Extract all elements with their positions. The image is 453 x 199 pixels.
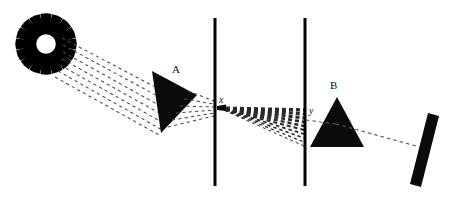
- prism-b: [310, 97, 364, 147]
- prism-a: [152, 71, 197, 133]
- screen-mirror: [410, 113, 439, 187]
- diagram-svg: [0, 0, 453, 199]
- sun-icon: [15, 13, 77, 75]
- barrier-1: [214, 18, 217, 186]
- optics-diagram-canvas: A B x y: [0, 0, 453, 199]
- slit-y-label: y: [309, 106, 313, 116]
- prism-b-label: B: [330, 80, 337, 91]
- prism-a-label: A: [172, 64, 180, 75]
- slit-x-label: x: [219, 95, 223, 105]
- ray-bundle-slit-x-to-slit-y: [217, 105, 304, 147]
- barrier-2: [304, 18, 307, 186]
